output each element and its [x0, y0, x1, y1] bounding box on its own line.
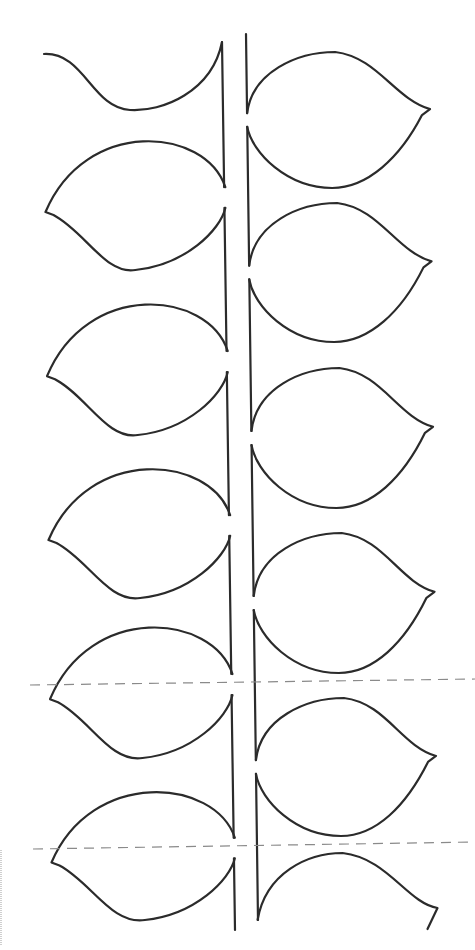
left-stem	[222, 42, 235, 930]
stem-segment	[256, 774, 258, 920]
stem-segment	[227, 372, 229, 515]
stem-segment	[229, 536, 231, 674]
page-edge	[0, 850, 2, 945]
left-leaves	[44, 42, 235, 920]
stem-segment	[232, 695, 234, 838]
right-stem	[246, 34, 258, 920]
leaf-outline	[247, 52, 430, 188]
leaf-outline	[44, 42, 222, 110]
leaf-outline	[254, 533, 435, 673]
leaf-outline	[249, 203, 431, 342]
right-leaves	[247, 52, 437, 929]
leaf-stem-illustration	[0, 0, 475, 950]
leaf-outline	[46, 141, 226, 270]
stem-segment	[246, 34, 247, 113]
stem-segment	[247, 127, 249, 266]
dashed-cut-line	[33, 842, 475, 849]
dashed-cut-line	[30, 679, 475, 685]
cut-lines	[30, 679, 475, 849]
stem-segment	[222, 42, 224, 187]
stem-segment	[224, 208, 226, 351]
leaf-outline	[256, 698, 436, 836]
stem-segment	[254, 610, 256, 760]
stem-segment	[249, 279, 251, 431]
leaf-outline	[258, 853, 438, 929]
stem-segment	[252, 445, 254, 596]
stem-segment	[234, 858, 235, 930]
leaf-template-drawing	[0, 0, 475, 950]
leaf-outline	[47, 305, 228, 436]
leaf-outline	[251, 368, 433, 508]
leaf-outline	[49, 469, 231, 598]
leaf-outline	[52, 792, 235, 920]
leaf-outline	[50, 628, 232, 759]
